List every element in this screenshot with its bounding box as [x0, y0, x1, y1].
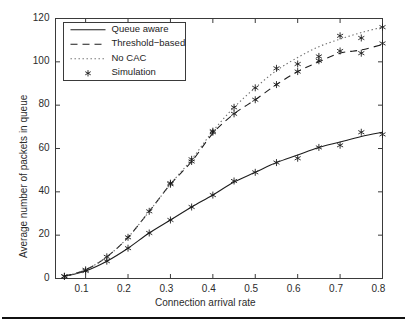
legend-entry-label: Simulation: [112, 66, 156, 77]
y-tick-label: 0: [26, 272, 50, 283]
y-tick-label: 40: [26, 185, 50, 196]
y-tick-label: 100: [26, 55, 50, 66]
asterisk-marker: [337, 142, 342, 148]
asterisk-marker: [359, 129, 364, 135]
asterisk-marker: [274, 81, 279, 87]
asterisk-marker: [147, 230, 152, 236]
legend-entry-label: Queue aware: [112, 23, 169, 34]
asterisk-marker: [189, 204, 194, 210]
asterisk-marker: [295, 61, 300, 67]
asterisk-marker: [125, 245, 130, 251]
asterisk-marker: [253, 97, 258, 103]
asterisk-marker: [253, 169, 258, 175]
x-tick-label: 0.8: [372, 283, 386, 294]
x-tick-label: 0.6: [287, 283, 301, 294]
asterisk-marker: [274, 65, 279, 71]
asterisk-marker: [168, 217, 173, 223]
asterisk-marker: [359, 50, 364, 56]
asterisk-marker: [189, 156, 194, 162]
asterisk-marker: [359, 35, 364, 41]
y-tick-label: 20: [26, 228, 50, 239]
x-tick-label: 0.3: [159, 283, 173, 294]
chart-plot-area: [0, 0, 407, 330]
asterisk-marker: [274, 159, 279, 165]
asterisk-marker: [295, 68, 300, 74]
footer-divider: [2, 317, 405, 319]
asterisk-marker: [104, 254, 109, 260]
asterisk-marker: [316, 53, 321, 59]
y-tick-label: 80: [26, 98, 50, 109]
x-tick-label: 0.5: [244, 283, 258, 294]
asterisk-marker: [253, 85, 258, 91]
figure-container: Average number of packets in queue Conne…: [0, 0, 407, 330]
y-tick-label: 120: [26, 12, 50, 23]
x-tick-label: 0.2: [117, 283, 131, 294]
legend-entry-label: Threshold−based: [112, 37, 186, 48]
asterisk-marker: [210, 192, 215, 198]
asterisk-marker: [380, 40, 385, 46]
x-tick-label: 0.7: [329, 283, 343, 294]
series-line: [64, 132, 382, 276]
y-tick-label: 60: [26, 142, 50, 153]
x-axis-label: Connection arrival rate: [155, 297, 256, 308]
x-tick-label: 0.1: [75, 283, 89, 294]
asterisk-marker: [231, 111, 236, 117]
x-tick-label: 0.4: [202, 283, 216, 294]
legend-entry-label: No CAC: [112, 52, 147, 63]
